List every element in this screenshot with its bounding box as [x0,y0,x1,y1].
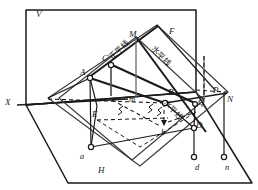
label-A: A [80,68,86,77]
label-c: c [113,95,117,104]
plane-h [26,92,252,183]
marker-A [87,75,92,80]
label-P: P [213,86,219,95]
oblique-plane [48,25,228,166]
label-D: D [196,121,203,130]
frontal-trace-line [88,26,197,104]
label-B: B [168,88,174,97]
marker-d [191,154,196,159]
right-angle-ticks [118,104,162,116]
diagram-canvas: V H X A C E M F B P N Q D c m b a d n 正平… [0,0,258,190]
label-n: n [225,163,229,172]
label-m: m [129,95,135,104]
label-M: M [129,30,137,39]
label-a: a [80,152,84,161]
label-X: X [5,98,11,107]
marker-Q [193,102,198,107]
label-E: E [92,110,98,119]
label-V: V [36,10,42,19]
label-Q: Q [198,98,205,107]
label-b: b [161,128,165,137]
marker-C [108,62,113,67]
label-d: d [195,163,199,172]
marker-a [88,144,93,149]
label-N: N [227,95,233,104]
label-H: H [98,166,105,175]
label-F: F [169,27,175,36]
marker-n [221,154,226,159]
arrow-head-b [161,120,167,126]
